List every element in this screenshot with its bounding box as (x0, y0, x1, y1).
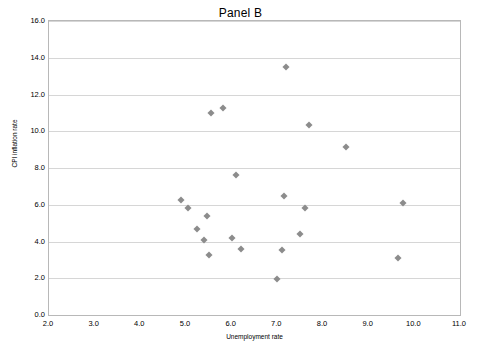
data-point (219, 105, 226, 112)
x-tick-label: 10.0 (398, 319, 428, 328)
gridline (49, 168, 460, 169)
y-tick-label: 8.0 (3, 163, 45, 172)
x-tick-label: 5.0 (170, 319, 200, 328)
data-point (194, 225, 201, 232)
x-tick-label: 4.0 (124, 319, 154, 328)
x-tick-label: 7.0 (261, 319, 291, 328)
x-tick-label: 2.0 (33, 319, 63, 328)
y-axis-ticks: 0.02.04.06.08.010.012.014.016.0 (0, 20, 45, 316)
gridline (49, 58, 460, 59)
data-point (203, 212, 210, 219)
y-tick-label: 6.0 (3, 199, 45, 208)
gridline (49, 278, 460, 279)
y-tick-label: 14.0 (3, 52, 45, 61)
x-tick-label: 9.0 (353, 319, 383, 328)
data-point (228, 234, 235, 241)
gridline (49, 95, 460, 96)
x-tick-label: 11.0 (444, 319, 474, 328)
y-tick-label: 16.0 (3, 16, 45, 25)
gridline (49, 21, 460, 22)
gridline (49, 205, 460, 206)
data-point (342, 143, 349, 150)
y-tick-label: 0.0 (3, 310, 45, 319)
gridline (49, 242, 460, 243)
x-tick-label: 8.0 (307, 319, 337, 328)
x-axis-ticks: 2.03.04.05.06.07.08.09.010.011.0 (48, 319, 461, 331)
y-tick-label: 4.0 (3, 236, 45, 245)
x-tick-label: 3.0 (79, 319, 109, 328)
data-point (297, 231, 304, 238)
data-point (395, 254, 402, 261)
y-tick-label: 2.0 (3, 273, 45, 282)
gridline (49, 131, 460, 132)
x-tick-label: 6.0 (216, 319, 246, 328)
data-point (237, 245, 244, 252)
scatter-chart: Panel B 0.02.04.06.08.010.012.014.016.0 … (0, 0, 481, 346)
data-point (281, 193, 288, 200)
data-point (178, 197, 185, 204)
x-axis-label: Unemployment rate (48, 333, 461, 340)
data-point (208, 109, 215, 116)
y-tick-label: 12.0 (3, 89, 45, 98)
data-point (301, 205, 308, 212)
y-tick-label: 10.0 (3, 126, 45, 135)
data-point (306, 121, 313, 128)
data-point (283, 63, 290, 70)
data-point (205, 252, 212, 259)
data-point (233, 172, 240, 179)
chart-title: Panel B (0, 6, 481, 20)
data-point (274, 276, 281, 283)
data-point (278, 246, 285, 253)
plot-area (48, 20, 461, 316)
y-axis-label: CPI inflation rate (11, 84, 18, 204)
